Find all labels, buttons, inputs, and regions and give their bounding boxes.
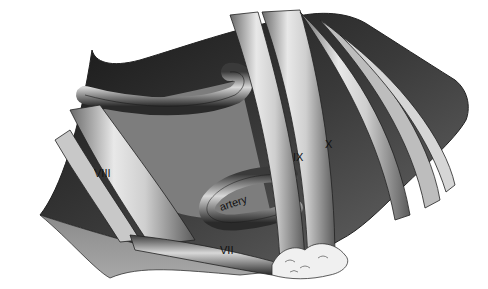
anatomy-illustration: VIII VII IX X artery	[0, 0, 488, 289]
label-vii: VII	[220, 244, 233, 256]
label-x: X	[325, 138, 333, 150]
label-viii: VIII	[94, 167, 111, 179]
label-ix: IX	[293, 151, 304, 163]
